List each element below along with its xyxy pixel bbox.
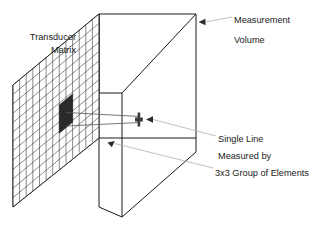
leader-3x3-group [115,144,213,169]
arrow-single-line [146,116,153,122]
label-single-line: Single Line [218,134,263,144]
measurement-volume-box [99,14,196,217]
leader-lines [115,17,232,168]
box-diagonal-top [122,14,196,93]
label-measurement: Measurement [234,15,291,25]
label-measured-by: Measured by [218,151,272,161]
box-diagonal-bottom [122,152,196,217]
leader-single-line [153,120,216,137]
label-volume: Volume [234,35,265,45]
beam-end-marker-center [135,118,143,122]
matrix-face-outline [13,14,99,207]
arrow-3x3-group [108,141,115,147]
box-bottom-left-connector [99,207,122,217]
technical-diagram-svg: Transducer Matrix Measurement Volume Sin… [0,0,321,231]
label-3x3-group-of-elements: 3x3 Group of Elements [215,168,309,178]
arrow-measurement-volume [199,19,206,25]
transducer-matrix [13,14,99,207]
diagram-canvas: Transducer Matrix Measurement Volume Sin… [0,0,321,231]
label-transducer-matrix-line2: Matrix [51,45,76,55]
label-transducer-matrix-line1: Transducer [30,32,76,42]
leader-measurement-volume [206,17,233,22]
